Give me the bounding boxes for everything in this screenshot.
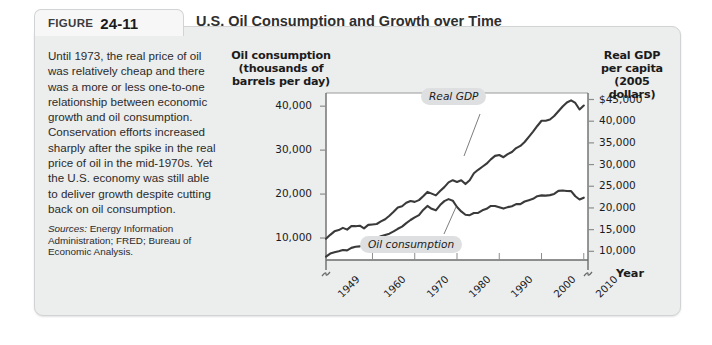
annotation-real-gdp: Real GDP bbox=[421, 88, 486, 105]
x-axis-title: Year bbox=[616, 267, 644, 280]
chart: Oil consumption (thousands of barrels pe… bbox=[228, 44, 674, 294]
caption-sources: Sources: Energy Information Administrati… bbox=[48, 223, 220, 258]
figure-number: 24-11 bbox=[100, 15, 138, 32]
sources-label: Sources: bbox=[48, 223, 87, 234]
figure-tab-content: FIGURE 24-11 bbox=[48, 13, 138, 33]
annotation-oil-consumption: Oil consumption bbox=[360, 236, 462, 253]
figure-root: FIGURE 24-11 U.S. Oil Consumption and Gr… bbox=[0, 0, 712, 345]
plot-area bbox=[228, 44, 674, 294]
caption-body: Until 1973, the real price of oil was re… bbox=[48, 48, 220, 216]
figure-label: FIGURE bbox=[48, 17, 93, 29]
figure-title: U.S. Oil Consumption and Growth over Tim… bbox=[196, 13, 502, 29]
caption-block: Until 1973, the real price of oil was re… bbox=[48, 48, 220, 258]
